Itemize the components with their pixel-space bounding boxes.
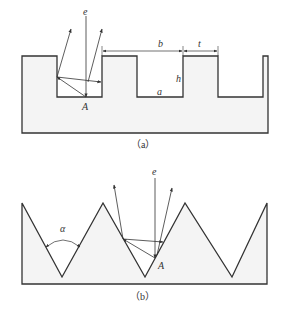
figure-b: α e A （b） — [22, 166, 267, 302]
label-A: A — [81, 101, 89, 112]
rectangular-grating-profile — [22, 56, 268, 133]
label-t: t — [198, 38, 201, 49]
reflected-ray — [123, 239, 163, 242]
caption-a: （a） — [131, 139, 155, 150]
label-A: A — [157, 260, 165, 271]
label-alpha: α — [60, 223, 66, 234]
figure-a: e b t h a A （a） — [22, 6, 268, 150]
label-b: b — [158, 38, 163, 49]
label-e: e — [152, 166, 157, 177]
triangular-grating-profile — [22, 203, 267, 284]
escaping-ray — [57, 29, 71, 77]
escaping-ray — [88, 29, 102, 82]
angle-alpha-arc — [46, 240, 80, 247]
diagram-canvas: e b t h a A （a） α e A （b） — [0, 0, 282, 318]
label-a: a — [157, 86, 162, 97]
label-e: e — [83, 6, 88, 17]
label-h: h — [176, 73, 181, 84]
caption-b: （b） — [130, 291, 155, 302]
